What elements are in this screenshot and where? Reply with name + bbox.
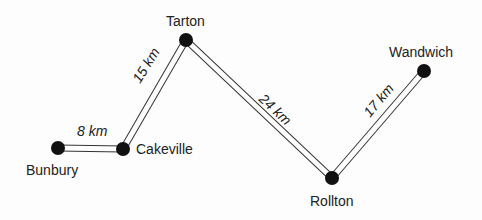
road-distance-label: 15 km [129,44,163,85]
town-label-bunbury: Bunbury [26,162,78,178]
town-label-cakeville: Cakeville [136,141,193,157]
map-canvas: 8 km15 km24 km17 kmBunburyCakevilleTarto… [0,0,482,220]
road-distance-label: 8 km [77,123,108,139]
town-node-cakeville [116,142,130,156]
town-node-tarton [179,33,193,47]
road-tarton-rollton [186,40,332,178]
town-label-rollton: Rollton [310,193,354,209]
town-label-tarton: Tarton [166,13,205,29]
town-node-rollton [325,171,339,185]
road-map-diagram: 8 km15 km24 km17 kmBunburyCakevilleTarto… [0,0,482,220]
town-node-bunbury [51,141,65,155]
town-node-wandwich [417,64,431,78]
road-bunbury-cakeville [58,148,123,149]
town-label-wandwich: Wandwich [389,44,453,60]
